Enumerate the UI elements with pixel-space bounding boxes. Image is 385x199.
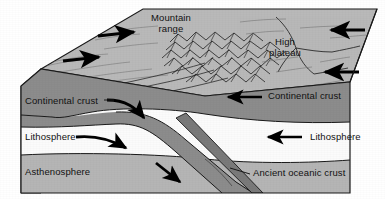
label-continental-crust-right: Continental crust: [268, 90, 341, 101]
label-mountain-range: Mountain range: [140, 12, 202, 34]
label-continental-crust-left: Continental crust: [25, 95, 98, 106]
label-high-plateau-line1: High: [258, 36, 312, 47]
label-high-plateau-line2: plateau: [258, 47, 312, 58]
label-mountain-range-line1: Mountain: [140, 12, 202, 23]
label-high-plateau: High plateau: [258, 36, 312, 58]
label-ancient-oceanic-crust: Ancient oceanic crust: [253, 167, 345, 178]
label-asthenosphere: Asthenosphere: [25, 166, 90, 177]
figure-canvas: Mountain range High plateau Continental …: [0, 0, 385, 199]
label-lithosphere-left: Lithosphere: [25, 131, 76, 142]
label-lithosphere-right: Lithosphere: [310, 131, 361, 142]
label-mountain-range-line2: range: [140, 23, 202, 34]
